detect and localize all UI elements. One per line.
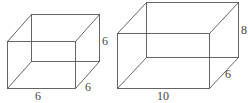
prism-edge-bottom-left — [118, 58, 147, 89]
prism-front-face — [118, 34, 210, 89]
two-boxes-diagram: 6 6 6 8 6 10 — [0, 0, 248, 102]
cube-back-face — [32, 15, 100, 62]
prism-edge-bottom-right — [210, 58, 239, 89]
prism-back-face — [147, 3, 239, 58]
prism-edge-top-right — [210, 3, 239, 34]
cube-edge-top-left — [8, 15, 32, 42]
cube-edge-bottom-left — [8, 62, 32, 89]
cube-height-label: 6 — [102, 34, 108, 48]
cube-front-face — [8, 42, 76, 89]
prism-depth-label: 6 — [225, 67, 231, 81]
prism-length-label: 10 — [157, 89, 169, 102]
prism-height-label: 8 — [241, 23, 247, 37]
cube-figure: 6 6 6 — [8, 15, 109, 103]
cube-depth-label: 6 — [85, 80, 91, 94]
cube-length-label: 6 — [35, 89, 41, 102]
cube-edge-top-right — [76, 15, 100, 42]
prism-edge-top-left — [118, 3, 147, 34]
prism-figure: 8 6 10 — [118, 3, 248, 103]
